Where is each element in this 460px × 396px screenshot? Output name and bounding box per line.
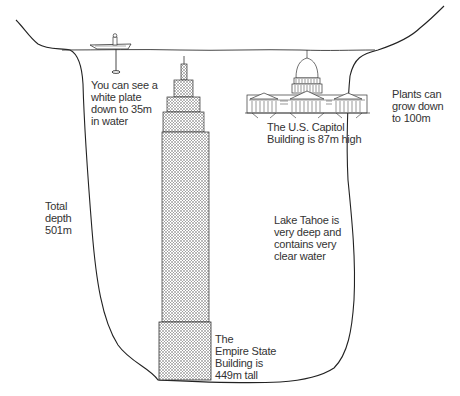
total-depth-label: Total depth 501m [45,200,72,236]
lake-basin-outline [16,6,444,383]
white-plate-label: You can see a white plate down to 35m in… [91,79,158,127]
capitol-height-label: The U.S. Capitol Building is 87m high [267,121,361,145]
empire-state-height-label: The Empire State Building is 449m tall [215,333,276,381]
lake-tahoe-diagram: You can see a white plate down to 35m in… [0,0,460,396]
plants-depth-label: Plants can grow down to 100m [392,88,443,124]
boat-icon [90,34,131,49]
us-capitol-building-icon [245,50,370,118]
white-plate-icon [112,49,120,73]
lake-tahoe-description-label: Lake Tahoe is very deep and contains ver… [274,214,341,262]
empire-state-building-icon [159,56,211,380]
water-surface-line [62,50,375,51]
